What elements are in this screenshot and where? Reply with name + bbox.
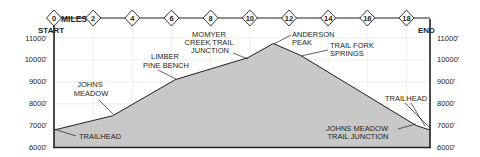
- mile-marker: 0: [47, 10, 62, 26]
- mile-marker: 18: [399, 10, 414, 26]
- svg-text:0: 0: [52, 14, 56, 23]
- mile-marker: 8: [203, 10, 218, 26]
- svg-text:16: 16: [363, 14, 371, 23]
- mile-marker: 2: [86, 10, 101, 26]
- svg-text:8: 8: [209, 14, 213, 23]
- mile-marker: 16: [360, 10, 375, 26]
- mile-marker: 4: [125, 10, 140, 26]
- svg-text:14: 14: [324, 14, 333, 23]
- svg-text:8000': 8000': [437, 99, 456, 108]
- y-axis-left-labels: 6000'7000'8000'9000'10000'11000': [25, 34, 48, 153]
- annotation-johns-meadow: JOHNS MEADOW: [74, 80, 110, 98]
- miles-label: MILES: [61, 14, 87, 24]
- svg-text:8000': 8000': [29, 99, 48, 108]
- svg-text:7000': 7000': [437, 121, 456, 130]
- end-label: END: [418, 26, 435, 35]
- svg-text:12: 12: [285, 14, 293, 23]
- annotation-trail-fork-springs: TRAIL FORK SPRINGS: [330, 41, 376, 58]
- elevation-profile-chart: 024681012141618 MILES START END 6000'700…: [0, 0, 480, 157]
- annotation-momyer-creek-trail-junction: MOMYER CREEK TRAIL JUNCTION: [185, 30, 236, 55]
- svg-text:10: 10: [246, 14, 254, 23]
- svg-text:18: 18: [402, 14, 410, 23]
- svg-text:11000': 11000': [437, 34, 459, 43]
- y-axis-right-labels: 6000'7000'8000'9000'10000'11000': [437, 34, 460, 153]
- mile-marker: 12: [282, 10, 297, 26]
- svg-text:6: 6: [169, 14, 173, 23]
- annotation-trailhead-end: TRAILHEAD: [385, 94, 428, 103]
- svg-text:9000': 9000': [29, 77, 48, 86]
- mile-marker: 14: [321, 10, 336, 26]
- svg-text:6000': 6000': [29, 143, 48, 152]
- annotation-johns-meadow-trail-junction: JOHNS MEADOW TRAIL JUNCTION: [326, 124, 390, 141]
- annotation-trailhead-start: TRAILHEAD: [79, 132, 122, 141]
- svg-text:2: 2: [91, 14, 95, 23]
- svg-text:10000': 10000': [437, 55, 460, 64]
- svg-text:11000': 11000': [25, 34, 47, 43]
- svg-text:7000': 7000': [29, 121, 48, 130]
- svg-text:9000': 9000': [437, 77, 456, 86]
- mile-marker: 6: [164, 10, 179, 26]
- svg-text:6000': 6000': [437, 143, 456, 152]
- svg-text:10000': 10000': [25, 55, 48, 64]
- mile-marker: 10: [242, 10, 257, 26]
- annotation-limber-pine-bench: LIMBER PINE BENCH: [143, 52, 189, 70]
